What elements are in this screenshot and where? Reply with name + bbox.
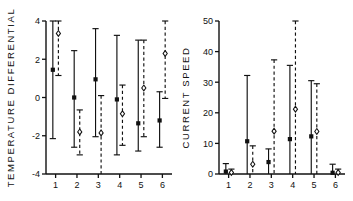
x-tick-labels-temperature: 123456 [53, 180, 165, 190]
error-bar-point [308, 81, 314, 174]
axis-lines-current-speed [215, 21, 345, 178]
y-tick-label: 30 [203, 78, 213, 88]
y-axis-label-temperature: TEMPERATURE DIFFERENTIAL [5, 8, 16, 188]
error-bar-point [162, 21, 168, 98]
x-tick-label: 2 [247, 180, 252, 190]
y-tick-label: -2 [32, 131, 40, 141]
error-bar-point [330, 164, 336, 175]
y-tick-labels-temperature: -4-2024 [32, 16, 40, 179]
error-bar-point [314, 84, 320, 174]
error-bar-point [114, 35, 120, 155]
error-bar-point [55, 21, 61, 76]
data-series-current-speed [223, 21, 342, 175]
error-bar-point [250, 146, 256, 174]
temperature-differential-plot: TEMPERATURE DIFFERENTIAL -4-2024 123456 [0, 0, 180, 201]
y-tick-label: 0 [35, 93, 40, 103]
x-tick-label: 3 [269, 180, 274, 190]
chart-panel-temperature-differential: TEMPERATURE DIFFERENTIAL -4-2024 123456 [0, 0, 180, 201]
error-bar-point [223, 164, 229, 174]
y-tick-label: 4 [35, 16, 40, 26]
error-bar-point [98, 96, 104, 174]
error-bar-point [292, 21, 298, 174]
x-tick-label: 1 [226, 180, 231, 190]
x-tick-label: 5 [312, 180, 317, 190]
x-tick-label: 2 [74, 180, 79, 190]
y-tick-label: 50 [203, 16, 213, 26]
x-tick-label: 4 [290, 180, 295, 190]
y-tick-label: 40 [203, 47, 213, 57]
error-bar-point [119, 85, 125, 145]
x-tick-label: 6 [333, 180, 338, 190]
x-tick-labels-current-speed: 123456 [226, 180, 338, 190]
current-speed-plot: CURRENT SPEED 01020304050 123456 [177, 0, 353, 201]
y-tick-label: 2 [35, 55, 40, 65]
x-tick-label: 4 [117, 180, 122, 190]
error-bar-point [271, 60, 277, 174]
data-series-temperature [50, 21, 169, 174]
error-bar-point [71, 51, 77, 148]
figure-root: TEMPERATURE DIFFERENTIAL -4-2024 123456 … [0, 0, 353, 201]
x-tick-label: 6 [160, 180, 165, 190]
error-bar-point [77, 110, 83, 155]
chart-panel-current-speed: CURRENT SPEED 01020304050 123456 [177, 0, 353, 201]
error-bar-point [135, 40, 141, 151]
y-tick-label: 10 [203, 139, 213, 149]
axis-lines-temperature [42, 21, 172, 178]
y-tick-label: -4 [32, 169, 40, 179]
x-tick-label: 3 [96, 180, 101, 190]
error-bar-point [92, 29, 98, 137]
x-tick-label: 5 [139, 180, 144, 190]
y-tick-label: 20 [203, 108, 213, 118]
error-bar-point [244, 75, 250, 174]
y-axis-label-current-speed: CURRENT SPEED [180, 47, 191, 149]
error-bar-point [141, 40, 147, 137]
error-bar-point [50, 21, 56, 139]
y-tick-label: 0 [208, 169, 213, 179]
error-bar-point [287, 65, 293, 174]
error-bar-point [157, 92, 163, 147]
x-tick-label: 1 [53, 180, 58, 190]
error-bar-point [265, 149, 271, 174]
y-tick-labels-current-speed: 01020304050 [203, 16, 213, 179]
